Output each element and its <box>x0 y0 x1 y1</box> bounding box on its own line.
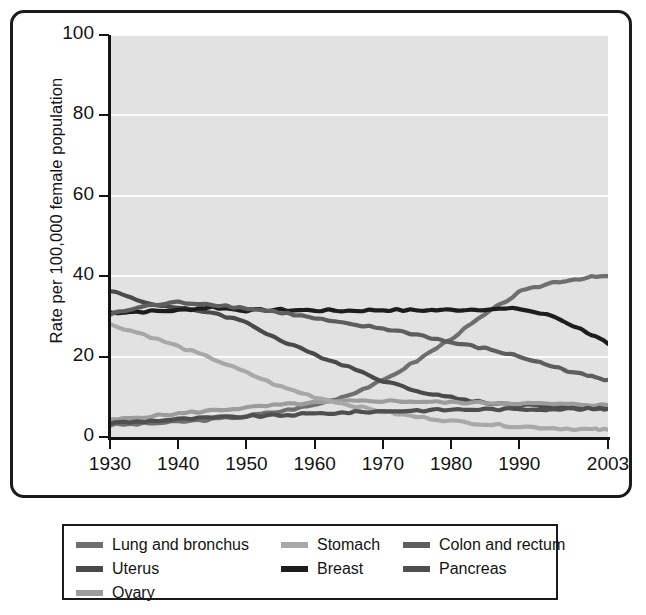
legend-item[interactable]: Stomach <box>281 534 380 556</box>
x-tick-label: 1970 <box>362 453 404 475</box>
y-tick-label: 20 <box>73 344 94 366</box>
x-tick <box>245 438 247 449</box>
x-tick-label: 1940 <box>157 453 199 475</box>
plot-wrapper: 020406080100 193019401950196019701980199… <box>110 35 608 447</box>
legend-item[interactable]: Pancreas <box>403 558 565 580</box>
legend-label: Stomach <box>317 537 380 553</box>
x-tick-label: 1980 <box>430 453 472 475</box>
y-tick: 60 <box>99 195 109 197</box>
legend-swatch-icon <box>403 566 430 572</box>
legend-column: Lung and bronchusUterusOvary <box>76 534 249 606</box>
legend: Lung and bronchusUterusOvaryStomachBreas… <box>62 524 558 600</box>
legend-column: Colon and rectumPancreas <box>403 534 565 582</box>
legend-swatch-icon <box>76 542 103 548</box>
y-tick-label: 100 <box>62 22 94 44</box>
y-tick: 40 <box>99 275 109 277</box>
legend-label: Uterus <box>112 561 159 577</box>
x-tick-label: 1960 <box>294 453 336 475</box>
x-tick <box>109 438 111 449</box>
y-tick: 100 <box>99 34 109 36</box>
y-tick-label: 80 <box>73 102 94 124</box>
x-tick <box>314 438 316 449</box>
y-tick: 20 <box>99 356 109 358</box>
y-tick-label: 0 <box>83 424 94 446</box>
x-tick-label: 1990 <box>498 453 540 475</box>
legend-item[interactable]: Breast <box>281 558 380 580</box>
x-tick <box>607 438 609 449</box>
legend-column: StomachBreast <box>281 534 380 582</box>
x-tick-label: 2003 <box>587 453 629 475</box>
legend-item[interactable]: Uterus <box>76 558 249 580</box>
legend-label: Colon and rectum <box>439 537 565 553</box>
legend-label: Pancreas <box>439 561 507 577</box>
y-axis-line <box>108 35 111 439</box>
legend-label: Breast <box>317 561 363 577</box>
x-tick-label: 1950 <box>225 453 267 475</box>
legend-label: Ovary <box>112 585 155 601</box>
legend-swatch-icon <box>281 542 308 548</box>
y-tick-label: 40 <box>73 263 94 285</box>
legend-item[interactable]: Colon and rectum <box>403 534 565 556</box>
legend-label: Lung and bronchus <box>112 537 249 553</box>
legend-swatch-icon <box>281 566 308 572</box>
x-tick-label: 1930 <box>89 453 131 475</box>
legend-swatch-icon <box>403 542 430 548</box>
x-tick <box>518 438 520 449</box>
y-tick: 80 <box>99 114 109 116</box>
chart-page: Rate per 100,000 female population 02040… <box>0 0 646 615</box>
legend-swatch-icon <box>76 566 103 572</box>
legend-swatch-icon <box>76 590 103 596</box>
chart-frame: Rate per 100,000 female population 02040… <box>10 10 632 498</box>
x-axis-line <box>108 437 610 440</box>
line-series-group <box>110 35 608 437</box>
legend-item[interactable]: Lung and bronchus <box>76 534 249 556</box>
x-tick <box>450 438 452 449</box>
y-axis-title: Rate per 100,000 female population <box>47 46 66 376</box>
x-tick <box>382 438 384 449</box>
x-tick <box>177 438 179 449</box>
plot-area <box>110 35 608 437</box>
y-tick-label: 60 <box>73 183 94 205</box>
y-tick: 0 <box>99 436 109 438</box>
legend-item[interactable]: Ovary <box>76 582 249 604</box>
